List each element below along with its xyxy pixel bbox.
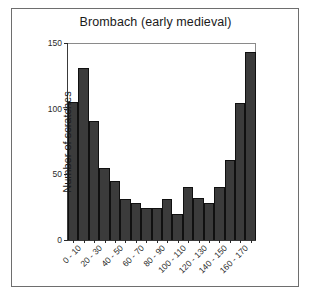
y-tick-label: 150 [48,38,62,48]
bar [120,199,130,240]
bar [78,68,88,240]
bar-series [68,43,256,240]
plot-area: 050100150 Number of scratches 0 - 1020 -… [68,43,256,240]
bar [193,198,203,240]
bar [235,103,245,240]
bar [172,214,182,240]
x-tick-label: 60 - 70 [120,243,146,269]
x-tick-label: 40 - 50 [99,243,125,269]
bar [89,121,99,241]
bar [131,203,141,240]
bar [110,181,120,240]
y-tick-label: 0 [57,235,62,245]
y-tick-mark [64,43,68,44]
chart-figure: Brombach (early medieval) 050100150 Numb… [0,0,311,297]
y-axis-label: Number of scratches [61,91,73,192]
chart-title: Brombach (early medieval) [0,15,311,29]
x-tick-label: 20 - 30 [78,243,104,269]
bar [141,208,151,240]
bar [99,168,109,240]
bar [225,160,235,240]
bar [245,52,255,240]
bar [204,203,214,240]
bar [162,199,172,240]
bar [183,187,193,240]
x-axis-tick-labels: 0 - 1020 - 3040 - 5060 - 7080 - 90100 - … [68,243,256,297]
bar [214,187,224,240]
bar [152,208,162,240]
